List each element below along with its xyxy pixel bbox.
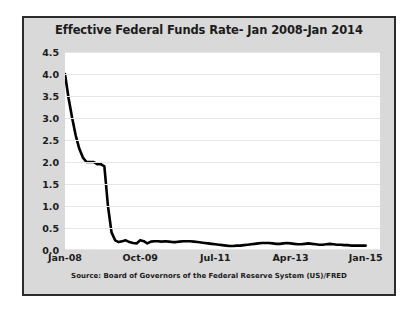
y-tick-label: 2.0 [42, 157, 59, 168]
y-tick-label: 0.5 [42, 223, 59, 234]
y-tick-label: 3.5 [42, 91, 59, 102]
y-tick-label: 4.5 [42, 47, 59, 58]
plot-area [65, 52, 380, 250]
gridline [65, 249, 380, 250]
y-tick-label: 2.5 [42, 135, 59, 146]
gridline [65, 184, 380, 185]
x-tick-label: Oct-09 [122, 252, 157, 263]
x-tick-label: Jan-15 [349, 252, 383, 263]
y-tick-label: 4.0 [42, 69, 59, 80]
x-tick-label: Jan-08 [48, 252, 82, 263]
y-axis: 0.00.51.01.52.02.53.03.54.04.5 [24, 52, 62, 250]
x-axis: Jan-08Oct-09Jul-11Apr-13Jan-15 [65, 252, 380, 268]
chart-frame: Effective Federal Funds Rate- Jan 2008-J… [22, 16, 396, 296]
gridline [65, 206, 380, 207]
chart-title: Effective Federal Funds Rate- Jan 2008-J… [24, 23, 394, 37]
line-series-svg [65, 52, 380, 250]
gridline [65, 96, 380, 97]
gridline [65, 140, 380, 141]
gridline [65, 74, 380, 75]
x-tick-label: Apr-13 [272, 252, 308, 263]
y-tick-label: 1.5 [42, 179, 59, 190]
source-note: Source: Board of Governors of the Federa… [24, 272, 394, 280]
gridline [65, 52, 380, 53]
y-tick-label: 3.0 [42, 113, 59, 124]
line-series-path [65, 74, 366, 246]
x-tick-label: Jul-11 [200, 252, 231, 263]
gridline [65, 118, 380, 119]
gridline [65, 162, 380, 163]
gridline [65, 228, 380, 229]
y-tick-label: 1.0 [42, 201, 59, 212]
